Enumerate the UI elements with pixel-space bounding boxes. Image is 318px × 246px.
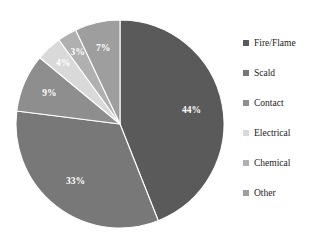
pie-chart-figure: 44%33%9%4%3%7% Fire/Flame Scald Contact … [0, 0, 318, 246]
legend-label-other: Other [254, 178, 276, 208]
legend-label-fire-flame: Fire/Flame [254, 28, 296, 58]
pie-slice-value-other: 7% [96, 43, 110, 53]
pie-slice-value-fire-flame: 44% [182, 105, 201, 115]
pie-slice-value-contact: 9% [42, 88, 56, 98]
pie-slice-value-electrical: 4% [56, 58, 70, 68]
legend-swatch-chemical [243, 160, 249, 166]
legend-swatch-scald [243, 70, 249, 76]
pie-slice-group [16, 20, 224, 228]
legend-item-electrical[interactable]: Electrical [243, 118, 318, 148]
legend-item-chemical[interactable]: Chemical [243, 148, 318, 178]
legend-swatch-contact [243, 100, 249, 106]
legend-swatch-electrical [243, 130, 249, 136]
legend-item-other[interactable]: Other [243, 178, 318, 208]
legend-label-chemical: Chemical [254, 148, 290, 178]
pie-chart-svg: 44%33%9%4%3%7% [0, 0, 232, 246]
legend-item-fire-flame[interactable]: Fire/Flame [243, 28, 318, 58]
legend-label-scald: Scald [254, 58, 275, 88]
chart-legend: Fire/Flame Scald Contact Electrical Chem… [243, 28, 318, 208]
legend-item-scald[interactable]: Scald [243, 58, 318, 88]
legend-label-electrical: Electrical [254, 118, 290, 148]
pie-chart-plot-area: 44%33%9%4%3%7% [0, 0, 232, 246]
pie-slice-value-chemical: 3% [71, 47, 85, 57]
pie-slice-value-scald: 33% [66, 176, 85, 186]
legend-swatch-fire-flame [243, 40, 249, 46]
legend-label-contact: Contact [254, 88, 284, 118]
legend-swatch-other [243, 190, 249, 196]
legend-item-contact[interactable]: Contact [243, 88, 318, 118]
